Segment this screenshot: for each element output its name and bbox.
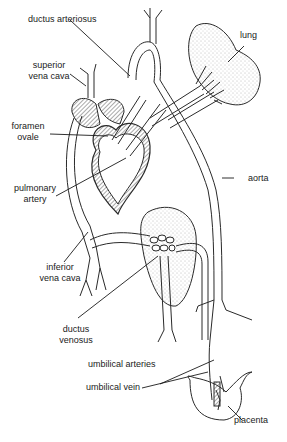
label-inferior-vena-cava-line1: inferior xyxy=(36,262,84,273)
label-foramen-ovale-line2: ovale xyxy=(8,132,48,143)
label-placenta: placenta xyxy=(234,415,268,426)
label-lung: lung xyxy=(240,30,257,41)
label-ductus-venosus-line2: venosus xyxy=(54,335,98,346)
label-pulmonary-artery-line1: pulmonary xyxy=(12,183,58,194)
label-umbilical-arteries: umbilical arteries xyxy=(88,359,156,370)
label-foramen-ovale-line1: foramen xyxy=(8,121,48,132)
label-inferior-vena-cava: inferior vena cava xyxy=(36,262,84,284)
label-superior-vena-cava-line2: vena cava xyxy=(24,71,74,82)
label-pulmonary-artery-line2: artery xyxy=(12,194,58,205)
label-inferior-vena-cava-line2: vena cava xyxy=(36,273,84,284)
label-superior-vena-cava: superior vena cava xyxy=(24,60,74,82)
label-umbilical-vein: umbilical vein xyxy=(86,382,140,393)
label-pulmonary-artery: pulmonary artery xyxy=(12,183,58,205)
label-aorta: aorta xyxy=(248,173,269,184)
label-superior-vena-cava-line1: superior xyxy=(24,60,74,71)
label-ductus-venosus-line1: ductus xyxy=(54,324,98,335)
label-ductus-arteriosus: ductus arteriosus xyxy=(28,14,97,25)
label-ductus-venosus: ductus venosus xyxy=(54,324,98,346)
fetal-circulation-diagram: ductus arteriosus lung superior vena cav… xyxy=(0,0,287,442)
label-foramen-ovale: foramen ovale xyxy=(8,121,48,143)
